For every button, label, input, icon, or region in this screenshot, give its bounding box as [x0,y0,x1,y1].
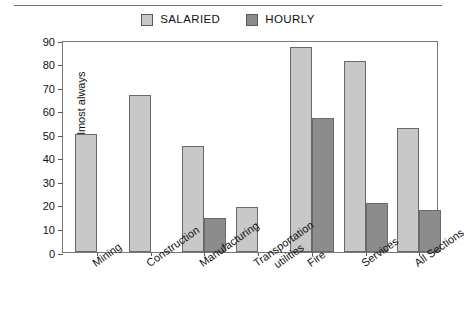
y-tick-label: 90 [43,37,55,48]
y-tick-30: 30 [43,177,63,189]
bar-salaried-0 [75,134,97,252]
y-tick-80: 80 [43,60,63,72]
y-tick-label: 70 [43,84,55,95]
y-tick-20: 20 [43,201,63,213]
y-tick-label: 40 [43,154,55,165]
bar-salaried-1 [129,95,151,252]
bar-hourly-5 [366,203,388,252]
bar-hourly-6 [419,210,441,252]
y-tick-label: 20 [43,201,55,212]
x-tick-mark-0 [97,252,98,256]
y-tick-60: 60 [43,107,63,119]
y-tick-label: 0 [49,249,55,260]
bar-hourly-4 [312,118,334,252]
x-tick-mark-3 [258,252,259,256]
header-divider [14,5,442,6]
x-tick-mark-6 [419,252,420,256]
plot-area: % Frequently/almost always 0102030405060… [62,41,438,253]
x-tick-mark-2 [204,252,205,256]
bar-salaried-5 [344,61,366,252]
y-tick-10: 10 [43,224,63,236]
y-tick-40: 40 [43,154,63,166]
bar-salaried-6 [397,128,419,252]
y-tick-50: 50 [43,130,63,142]
bar-hourly-2 [204,218,226,252]
chart-legend: SALARIED HOURLY [0,14,456,26]
x-tick-mark-1 [151,252,152,256]
bar-salaried-4 [290,47,312,252]
bars-layer [63,42,437,252]
y-tick-label: 30 [43,178,55,189]
legend-item-hourly: HOURLY [246,14,314,26]
y-tick-label: 80 [43,60,55,71]
x-tick-mark-5 [366,252,367,256]
y-tick-label: 50 [43,131,55,142]
bar-salaried-2 [182,146,204,252]
y-tick-70: 70 [43,83,63,95]
x-tick-mark-4 [312,252,313,256]
legend-label-salaried: SALARIED [160,14,220,26]
y-tick-label: 60 [43,107,55,118]
legend-item-salaried: SALARIED [141,14,220,26]
y-tick-90: 90 [43,36,63,48]
y-tick-0: 0 [49,248,63,260]
legend-swatch-hourly [246,14,258,26]
bar-salaried-3 [236,207,258,252]
y-tick-label: 10 [43,225,55,236]
legend-swatch-salaried [141,14,153,26]
legend-label-hourly: HOURLY [265,14,314,26]
y-tick-mark [58,254,63,255]
